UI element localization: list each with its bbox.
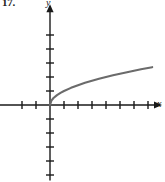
math-figure: 17. y x [0,0,165,182]
y-axis-arrowhead [46,4,53,12]
x-axis-arrowhead [154,101,162,108]
x-axis [0,101,162,108]
coordinate-plane [0,0,165,182]
curve-path [50,67,152,105]
y-axis [46,4,53,180]
function-curve [50,67,152,105]
